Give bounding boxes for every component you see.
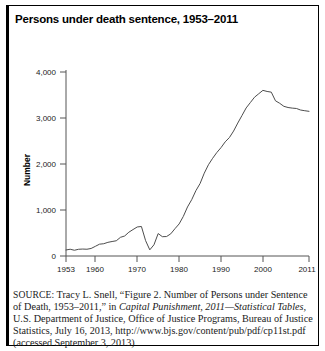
line-chart-svg: 4,000 3,000 2,000 1,000 0 Number 1953 19… — [0, 0, 325, 290]
y-axis-ticks: 4,000 3,000 2,000 1,000 0 — [36, 68, 66, 261]
x-tick-label-1953: 1953 — [57, 265, 75, 274]
data-series-line — [66, 90, 309, 250]
source-note: SOURCE: Tracy L. Snell, “Figure 2. Numbe… — [13, 289, 313, 349]
y-tick-label-2000: 2,000 — [36, 160, 57, 169]
y-tick-label-0: 0 — [52, 252, 57, 261]
x-axis-ticks: 1953 1960 1970 1980 1990 2000 2011 — [57, 256, 316, 274]
source-text-part2: U.S. Department of Justice, Office of Ju… — [13, 313, 313, 348]
y-tick-label-4000: 4,000 — [36, 68, 57, 77]
x-tick-label-1960: 1960 — [86, 265, 104, 274]
x-tick-label-2011: 2011 — [298, 265, 316, 274]
y-axis-title: Number — [22, 153, 32, 186]
y-tick-label-1000: 1,000 — [36, 206, 57, 215]
source-keyword: SOURCE: — [13, 289, 54, 300]
x-tick-label-2000: 2000 — [254, 265, 272, 274]
source-title-italic: Capital Punishment, 2011—Statistical Tab… — [119, 301, 306, 312]
x-tick-label-1990: 1990 — [212, 265, 230, 274]
chart-plot-area: 4,000 3,000 2,000 1,000 0 Number 1953 19… — [0, 0, 325, 290]
x-tick-label-1970: 1970 — [128, 265, 146, 274]
x-tick-label-1980: 1980 — [170, 265, 188, 274]
y-tick-label-3000: 3,000 — [36, 114, 57, 123]
figure-container: Persons under death sentence, 1953–2011 … — [0, 0, 325, 351]
